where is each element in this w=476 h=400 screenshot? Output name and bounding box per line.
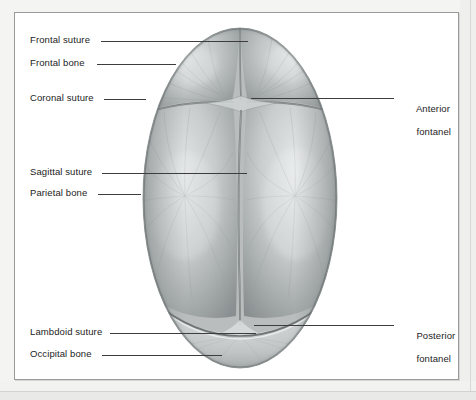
label-anterior-fontanel-line2: fontanel <box>416 126 451 137</box>
label-sagittal-suture: Sagittal suture <box>30 166 92 178</box>
label-frontal-bone: Frontal bone <box>30 57 85 69</box>
leader-coronal-suture <box>104 99 146 100</box>
leader-frontal-bone <box>97 64 176 65</box>
label-posterior-fontanel: Posterior fontanel <box>400 318 455 376</box>
label-anterior-fontanel: Anterior fontanel <box>400 91 451 149</box>
label-lambdoid-suture: Lambdoid suture <box>30 326 102 338</box>
label-posterior-fontanel-line2: fontanel <box>416 353 451 364</box>
label-parietal-bone: Parietal bone <box>30 187 87 199</box>
leader-parietal-bone <box>98 194 141 195</box>
label-anterior-fontanel-line1: Anterior <box>416 103 450 114</box>
leader-frontal-suture <box>101 41 248 42</box>
label-frontal-suture: Frontal suture <box>30 34 90 46</box>
leader-posterior-fontanel <box>254 325 394 326</box>
leader-lambdoid-suture <box>110 333 256 334</box>
leader-sagittal-suture <box>102 173 247 174</box>
label-posterior-fontanel-line1: Posterior <box>416 330 455 341</box>
leader-anterior-fontanel <box>251 98 394 99</box>
label-occipital-bone: Occipital bone <box>30 348 92 360</box>
label-coronal-suture: Coronal suture <box>30 92 94 104</box>
leader-occipital-bone <box>102 355 222 356</box>
